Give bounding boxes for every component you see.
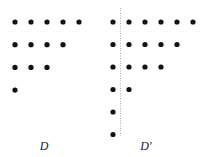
diagram-d-prime [110,8,195,137]
diagram-dot [76,19,81,24]
diagram-dot [126,87,131,92]
diagram-dot [12,88,17,93]
diagram-dot [110,42,115,47]
diagram-dot [12,65,17,70]
diagram-dot [158,19,163,24]
diagram-dot [142,19,147,24]
diagram-dot [110,87,115,92]
diagram-dot [158,64,163,69]
diagram-dot [44,19,49,24]
diagram-dot [126,64,131,69]
diagram-dot [126,19,131,24]
diagram-dot [28,19,33,24]
diagram-dot [44,65,49,70]
diagram-dot [12,42,17,47]
diagram-d-prime-label: D′ [139,139,152,153]
young-diagrams-figure: D D′ [0,0,208,157]
diagram-dot [60,42,65,47]
diagram-dot [142,42,147,47]
diagram-dot [110,132,115,137]
diagram-dot [142,64,147,69]
diagram-dot [174,19,179,24]
diagram-dot [110,19,115,24]
diagram-dot [12,19,17,24]
diagram-dot [28,65,33,70]
diagram-dot [174,42,179,47]
diagram-dot [110,109,115,114]
diagram-dot [126,42,131,47]
diagram-dot [110,64,115,69]
diagram-dot [190,19,195,24]
diagram-dot [60,19,65,24]
diagram-dot [28,42,33,47]
diagram-dot [158,42,163,47]
diagram-d-label: D [39,139,49,153]
diagram-d [12,19,81,92]
diagram-dot [44,42,49,47]
